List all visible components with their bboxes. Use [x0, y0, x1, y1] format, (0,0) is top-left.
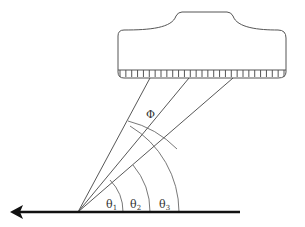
- beam-line-3: [78, 78, 233, 212]
- transducer-beam-diagram: Φ θ1 θ2 θ3: [0, 0, 305, 227]
- transducer-housing: [118, 12, 286, 78]
- angle-arcs: [110, 121, 179, 212]
- phi-label: Φ: [146, 108, 155, 121]
- theta1-label: θ1: [106, 198, 117, 212]
- beam-lines: [78, 78, 233, 212]
- theta2-label: θ2: [130, 198, 141, 212]
- beam-line-1: [78, 78, 150, 212]
- direction-arrow: [10, 205, 240, 219]
- theta3-arc: [130, 126, 179, 212]
- transducer: [118, 12, 286, 78]
- theta3-label: θ3: [159, 198, 170, 212]
- transducer-elements: [120, 70, 284, 77]
